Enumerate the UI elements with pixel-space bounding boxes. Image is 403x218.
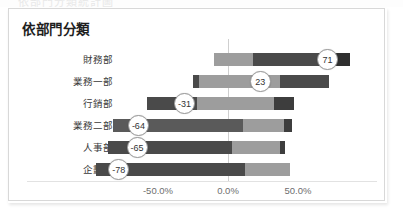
chart-title: 依部門分類: [22, 18, 90, 38]
bar-segment-2-1[interactable]: [197, 97, 274, 110]
data-label-bubble-3: -64: [128, 115, 149, 136]
bar-segment-4-1[interactable]: [232, 141, 280, 154]
bar-2[interactable]: [9, 97, 386, 110]
bar-segment-0-0[interactable]: [214, 53, 253, 66]
data-label-bubble-1: 23: [250, 71, 271, 92]
bar-segment-4-2[interactable]: [280, 141, 286, 154]
bar-5[interactable]: [9, 163, 386, 176]
axis-baseline: [27, 181, 377, 182]
chart-panel: 依部門分類 財務部71業務一部23行銷部-31業務二部-64人事部-65企劃部-…: [8, 8, 385, 201]
bar-segment-2-2[interactable]: [274, 97, 294, 110]
bar-segment-1-2[interactable]: [280, 75, 329, 88]
ghost-text: 依部門分類統計圖: [18, 0, 114, 7]
x-axis-tick-labels: -50.0%0.0%50.0%: [9, 185, 386, 201]
data-label-bubble-4: -65: [127, 137, 148, 158]
bar-1[interactable]: [9, 75, 386, 88]
bar-segment-3-1[interactable]: [243, 119, 284, 132]
cutoff-text-above-panel: 依部門分類統計圖: [0, 0, 403, 7]
bar-segment-3-2[interactable]: [284, 119, 292, 132]
tick-label-0: -50.0%: [143, 185, 173, 196]
bar-4[interactable]: [9, 141, 386, 154]
bar-segment-0-2[interactable]: [337, 53, 350, 66]
tick-label-1: 0.0%: [217, 185, 239, 196]
data-label-bubble-2: -31: [174, 93, 195, 114]
plot-area: 財務部71業務一部23行銷部-31業務二部-64人事部-65企劃部-78: [9, 39, 386, 179]
data-label-bubble-0: 71: [317, 49, 338, 70]
bar-3[interactable]: [9, 119, 386, 132]
tick-label-2: 50.0%: [285, 185, 312, 196]
data-label-bubble-5: -78: [108, 159, 129, 180]
bar-segment-5-1[interactable]: [245, 163, 290, 176]
